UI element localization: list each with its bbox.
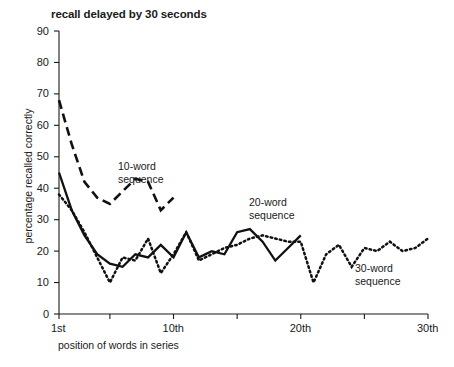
series-annotation: 10-wordsequence — [118, 160, 164, 185]
series-annotation-line1: 10-word — [118, 160, 164, 173]
y-tick-label: 80 — [19, 57, 49, 68]
series-annotation: 20-wordsequence — [249, 196, 295, 221]
x-tick-label: 10th — [163, 323, 184, 334]
series-annotation-line1: 20-word — [249, 196, 295, 209]
y-tick-label: 70 — [19, 88, 49, 99]
series-annotation-line2: sequence — [355, 275, 401, 288]
series-annotation-line1: 30-word — [355, 262, 401, 275]
y-tick-label: 20 — [19, 246, 49, 257]
y-tick-label: 40 — [19, 183, 49, 194]
series-annotation-line2: sequence — [249, 209, 295, 222]
y-tick-label: 50 — [19, 151, 49, 162]
x-axis-label: position of words in series — [58, 339, 179, 351]
series-annotation-line2: sequence — [118, 173, 164, 186]
chart-figure: recall delayed by 30 seconds percentage … — [0, 0, 454, 367]
y-tick-label: 0 — [19, 309, 49, 320]
y-tick-label: 10 — [19, 277, 49, 288]
x-tick-label: 30th — [417, 323, 438, 334]
data-lines — [59, 100, 428, 282]
x-tick-label: 1st — [51, 323, 66, 334]
y-tick-label: 30 — [19, 214, 49, 225]
chart-title: recall delayed by 30 seconds — [51, 8, 207, 20]
series-line-dashed — [59, 100, 174, 210]
plot-area — [0, 0, 454, 367]
series-annotation: 30-wordsequence — [355, 262, 401, 287]
y-tick-label: 60 — [19, 120, 49, 131]
x-tick-label: 20th — [290, 323, 311, 334]
y-tick-label: 90 — [19, 26, 49, 37]
